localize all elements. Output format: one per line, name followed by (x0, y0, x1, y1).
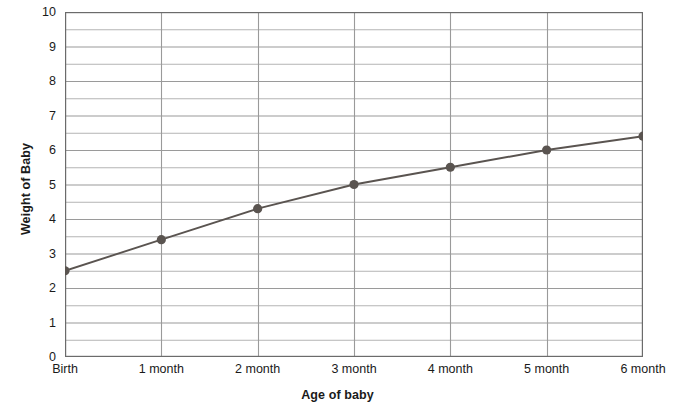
y-tick-label: 4 (30, 213, 56, 226)
line-chart: Weight of Baby 012345678910 Birth1 month… (0, 0, 675, 409)
y-tick-label: 10 (30, 6, 56, 19)
x-tick-label: 4 month (428, 363, 473, 376)
data-point (157, 235, 166, 244)
plot-area (65, 12, 643, 357)
data-point (253, 204, 262, 213)
x-tick-label: Birth (52, 363, 78, 376)
y-tick-label: 7 (30, 110, 56, 123)
x-tick-label: 6 month (620, 363, 665, 376)
x-tick-label: 1 month (139, 363, 184, 376)
data-point (542, 145, 551, 154)
plot-svg (65, 12, 643, 357)
y-tick-label: 1 (30, 317, 56, 330)
y-tick-label: 8 (30, 75, 56, 88)
y-tick-label: 5 (30, 179, 56, 192)
x-tick-label: 2 month (235, 363, 280, 376)
data-point (349, 180, 358, 189)
x-tick-label: 5 month (524, 363, 569, 376)
data-point (65, 266, 70, 275)
y-tick-label: 3 (30, 248, 56, 261)
x-axis-title: Age of baby (0, 388, 675, 402)
x-tick-label: 3 month (331, 363, 376, 376)
y-tick-label: 2 (30, 282, 56, 295)
chart-title (0, 0, 675, 1)
y-tick-label: 9 (30, 41, 56, 54)
data-point (446, 163, 455, 172)
y-tick-label: 6 (30, 144, 56, 157)
